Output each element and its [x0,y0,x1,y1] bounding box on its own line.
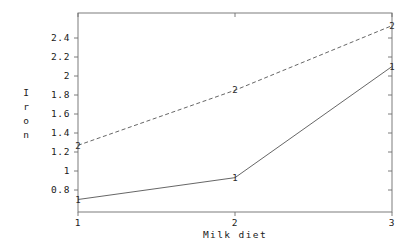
x-tick-label: 3 [389,217,395,228]
line-chart: 0.811.21.41.61.822.22.4 123 111222 Milk … [0,0,420,246]
y-tick-label: 2.4 [51,32,70,43]
y-tick-label: 1.2 [51,146,70,157]
y-axis-title-letter: o [23,115,29,126]
data-point-marker-2-3: 2 [389,21,394,31]
data-point-marker-1-1: 1 [75,195,80,205]
y-tick-label: 2.2 [51,51,70,62]
y-tick-label: 1.8 [51,89,70,100]
y-axis-title-letter: r [23,101,29,112]
y-axis-title-letter: n [23,129,29,140]
data-point-marker-2-2: 2 [232,85,237,95]
y-tick-label: 1.6 [51,108,70,119]
data-point-marker-2-1: 2 [75,141,80,151]
y-tick-label: 1 [64,165,70,176]
data-point-marker-1-2: 1 [232,173,237,183]
y-tick-label: 2 [64,70,70,81]
y-tick-label: 1.4 [51,127,70,138]
y-tick-label: 0.8 [51,184,70,195]
chart-container: 0.811.21.41.61.822.22.4 123 111222 Milk … [0,0,420,246]
y-axis-title-letter: I [23,87,29,98]
x-axis-title: Milk diet [203,229,267,240]
x-tick-label: 2 [232,217,238,228]
x-tick-label: 1 [75,217,81,228]
data-point-marker-1-3: 1 [389,62,394,72]
